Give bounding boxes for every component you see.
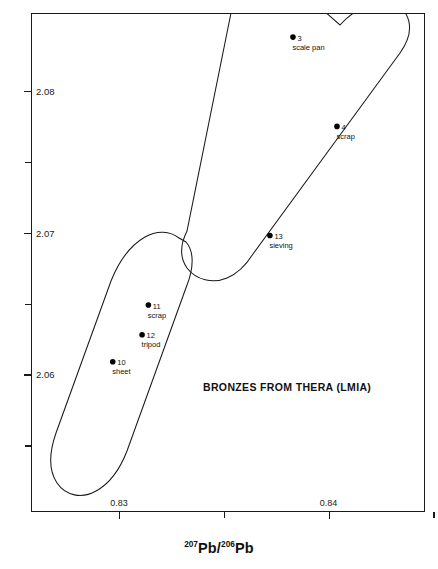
data-point-marker: [139, 332, 145, 338]
data-point-label: tripod: [142, 340, 161, 349]
x-tick-minor: [224, 512, 225, 518]
y-tick-major: [24, 374, 31, 375]
y-tick-major: [24, 233, 31, 234]
y-tick-major: [24, 91, 31, 92]
data-point-marker: [290, 34, 296, 40]
data-point: 4scrap: [334, 123, 355, 141]
x-tick-minor: [433, 512, 434, 518]
data-point-label: sheet: [112, 367, 131, 376]
data-point-marker: [334, 124, 340, 130]
chart-annotation: BRONZES FROM THERA (LMIA): [203, 381, 371, 393]
data-point-marker: [146, 302, 152, 308]
data-point-marker: [110, 359, 116, 365]
data-point-id: 11: [153, 302, 161, 311]
x-axis-mid: Pb/: [198, 540, 221, 556]
data-point-id: 3: [297, 34, 301, 43]
data-point-id: 13: [274, 232, 282, 241]
x-tick-major: [329, 512, 330, 519]
x-axis-title: 207Pb/206Pb: [184, 540, 254, 556]
x-axis-sup-207: 207: [184, 540, 198, 549]
x-tick-major: [119, 512, 120, 519]
data-point: 10sheet: [110, 358, 132, 376]
data-point: 12tripod: [139, 331, 160, 349]
data-point: 13sieving: [267, 232, 293, 250]
lead-isotope-figure: 208Pb/206Pb 207Pb/206Pb 2.082.072.060.83…: [0, 0, 438, 569]
ore-field-outlines: [51, 13, 410, 495]
data-point-label: scrap: [148, 311, 166, 320]
data-point-id: 12: [147, 331, 155, 340]
data-point-label: sieving: [269, 241, 292, 250]
x-axis-end: Pb: [235, 540, 254, 556]
x-axis-sup-206: 206: [221, 540, 235, 549]
data-point: 11scrap: [146, 302, 167, 320]
data-point: 3scale pan: [290, 34, 324, 52]
data-point-label: scrap: [336, 132, 354, 141]
plot-canvas: 3scale pan4scrap13sieving11scrap12tripod…: [31, 13, 425, 512]
data-point-label: scale pan: [292, 43, 324, 52]
data-point-id: 10: [117, 358, 125, 367]
data-point-id: 4: [341, 123, 345, 132]
data-points-layer: 3scale pan4scrap13sieving11scrap12tripod…: [110, 34, 355, 377]
upper-field-outline: [182, 13, 410, 281]
data-point-marker: [267, 233, 273, 239]
